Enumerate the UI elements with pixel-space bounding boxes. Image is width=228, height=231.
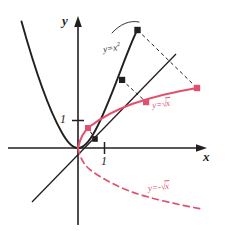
parabola-label-exponent: 2 [116, 41, 120, 47]
x-axis-label: x [203, 150, 210, 163]
parabola-curve [22, 22, 138, 149]
point-marker-p2-red [143, 99, 149, 105]
graph-figure: y x 1 1 y=x2 y=√x y=-√x [0, 0, 228, 231]
point-marker-p1-red [85, 125, 91, 131]
y-axis-arrowhead [74, 16, 82, 27]
sqrt-negative-radicand: x [164, 180, 170, 191]
point-marker-p3-red [194, 85, 200, 91]
reflection-connector-3 [138, 30, 198, 88]
point-marker-p1-black [92, 136, 98, 142]
point-marker-p3-black [134, 27, 140, 33]
point-marker-p2-black [119, 77, 125, 83]
reflection-connector-2 [122, 80, 146, 102]
graph-canvas [0, 0, 228, 231]
y-axis-tick-label-1: 1 [60, 113, 66, 125]
parabola-curve-label: y=x2 [102, 41, 121, 54]
sqrt-negative-radical-sign: √x [161, 182, 171, 192]
sqrt-negative-curve [78, 148, 202, 209]
x-axis-tick-label-1: 1 [101, 155, 107, 167]
sqrt-positive-radical-sign: √x [161, 99, 171, 109]
y-axis-label: y [62, 14, 68, 27]
sqrt-negative-label-prefix: y=- [147, 182, 161, 193]
